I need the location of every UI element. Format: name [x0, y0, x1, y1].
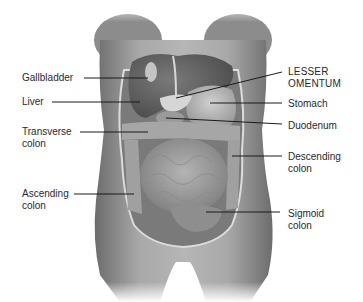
label-duodenum: Duodenum [288, 120, 337, 132]
gallbladder-organ [145, 62, 157, 82]
stomach-organ [186, 85, 236, 128]
label-lesser-omentum: LESSER OMENTUM [288, 66, 341, 89]
label-descending-colon: Descending colon [288, 151, 341, 174]
label-ascending-colon: Ascending colon [22, 188, 69, 211]
label-sigmoid-colon: Sigmoid colon [288, 208, 324, 231]
label-liver: Liver [22, 96, 44, 108]
label-stomach: Stomach [288, 98, 327, 110]
label-gallbladder: Gallbladder [22, 72, 73, 84]
label-transverse-colon: Transverse colon [22, 126, 72, 149]
descending-colon-organ [226, 140, 240, 210]
